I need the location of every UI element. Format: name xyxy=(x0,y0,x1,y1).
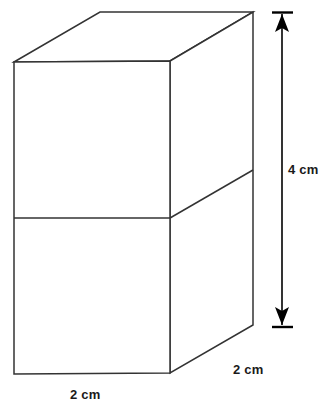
geometry-diagram: 4 cm 2 cm 2 cm xyxy=(0,0,329,403)
depth-dimension-label: 2 cm xyxy=(233,362,263,377)
prism-figure-svg xyxy=(0,0,329,403)
prism-faces xyxy=(14,12,253,374)
width-dimension-label: 2 cm xyxy=(70,387,100,402)
right-face xyxy=(170,12,253,373)
height-dimension-label: 4 cm xyxy=(288,162,318,177)
